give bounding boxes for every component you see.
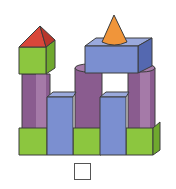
cylinder-middle xyxy=(75,64,102,130)
blue-tall-block-right xyxy=(100,92,129,155)
red-pyramid xyxy=(19,26,55,47)
answer-box[interactable] xyxy=(74,163,91,180)
cylinder-left xyxy=(22,74,50,130)
blue-tall-block-left xyxy=(47,92,76,155)
cylinder-right xyxy=(128,64,155,130)
block-building-diagram xyxy=(0,0,176,189)
orange-cone xyxy=(102,15,127,45)
